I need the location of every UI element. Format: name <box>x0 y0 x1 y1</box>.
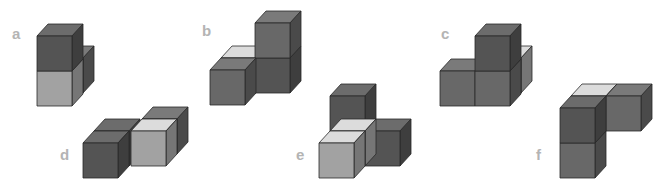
cube-figure-d <box>83 107 188 178</box>
cube-front-face <box>37 36 72 71</box>
cube-figures-canvas <box>0 0 664 195</box>
cube <box>255 11 301 58</box>
cube-front-face <box>255 58 290 93</box>
cube-front-face <box>560 108 595 143</box>
cube-front-face <box>37 71 72 106</box>
cube-figure-e <box>319 84 411 178</box>
cube-front-face <box>210 70 245 105</box>
cube <box>131 119 177 166</box>
figure-label-d: d <box>60 146 69 163</box>
cube-front-face <box>440 71 475 106</box>
cube <box>210 58 256 105</box>
cube-front-face <box>475 36 510 71</box>
cube-front-face <box>255 23 290 58</box>
figure-label-b: b <box>202 22 211 39</box>
cube <box>319 131 365 178</box>
cube-front-face <box>475 71 510 106</box>
cube-front-face <box>560 143 595 178</box>
cube-front-face <box>83 143 118 178</box>
cube-figure-b <box>210 11 301 105</box>
figure-label-e: e <box>296 146 304 163</box>
cube-figure-a <box>37 24 94 106</box>
cube-front-face <box>131 131 166 166</box>
cube-figure-c <box>440 24 532 106</box>
cube <box>475 24 521 71</box>
cube <box>37 24 83 71</box>
figure-label-c: c <box>441 25 449 42</box>
cube-front-face <box>606 96 641 131</box>
cube <box>83 131 129 178</box>
figure-label-a: a <box>12 25 20 42</box>
figure-label-f: f <box>536 146 541 163</box>
cube-figure-f <box>560 84 652 178</box>
cube <box>560 96 606 143</box>
cube <box>606 84 652 131</box>
cube-front-face <box>319 143 354 178</box>
